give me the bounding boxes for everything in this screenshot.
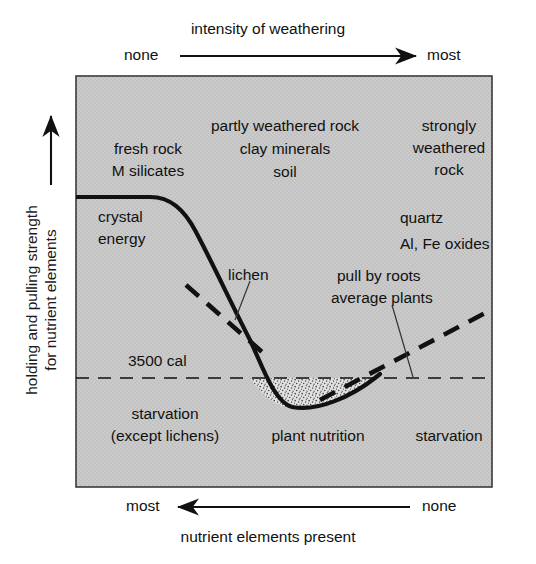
label-crystal: crystal [98,208,143,226]
plot-area [76,76,492,487]
top-axis-right-end: most [427,46,461,64]
label-energy: energy [98,230,145,248]
label-m-silicates: M silicates [112,162,184,180]
label-quartz: quartz [400,209,443,227]
label-lichen: lichen [228,266,269,284]
label-starvation-right: starvation [415,427,482,445]
label-fresh-rock: fresh rock [114,140,182,158]
label-al-fe-oxides: Al, Fe oxides [400,235,490,253]
label-strongly: strongly [422,117,476,135]
label-threshold-3500-cal: 3500 cal [128,352,187,370]
bottom-axis-title: nutrient elements present [181,528,356,546]
bottom-axis-right-end: none [422,497,456,515]
bottom-axis-left-end: most [126,497,160,515]
label-rock: rock [434,161,463,179]
label-soil: soil [273,163,296,181]
label-weathered: weathered [413,139,485,157]
label-starvation-left: starvation [131,405,198,423]
label-clay-minerals: clay minerals [240,140,330,158]
label-average-plants: average plants [331,289,433,307]
label-pull-by-roots: pull by roots [337,267,421,285]
label-except-lichens: (except lichens) [111,427,220,445]
label-partly-weathered-rock: partly weathered rock [211,117,359,135]
label-plant-nutrition: plant nutrition [271,427,364,445]
y-axis-label: holding and pulling strength for nutrien… [22,120,61,480]
top-axis-left-end: none [124,46,158,64]
top-axis-title: intensity of weathering [191,20,345,38]
